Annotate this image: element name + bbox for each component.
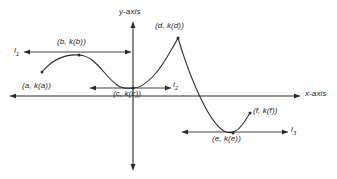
x-axis-label: x-axis [305, 90, 327, 98]
point-label-a: (a, k(a)) [22, 82, 51, 90]
graph-figure: y-axis x-axis (a, k(a)) (b, k(b)) (c, k(… [0, 0, 337, 179]
point-label-e: (e, k(e)) [212, 135, 241, 143]
point-marker-a [41, 71, 44, 74]
point-label-f: (f, k(f)) [253, 107, 277, 115]
point-label-d: (d, k(d)) [155, 22, 184, 30]
point-label-b: (b, k(b)) [57, 38, 86, 46]
point-marker-d [177, 37, 180, 40]
tangent-label-l2: l2 [173, 81, 178, 91]
point-markers [41, 37, 252, 135]
tangent-label-l1: l1 [14, 47, 19, 57]
point-marker-b [78, 54, 81, 57]
point-label-c: (c, k(c)) [113, 90, 141, 98]
y-axis-label: y-axis [119, 8, 141, 16]
point-marker-f [249, 112, 252, 115]
tangent-label-l3: l3 [291, 126, 296, 136]
